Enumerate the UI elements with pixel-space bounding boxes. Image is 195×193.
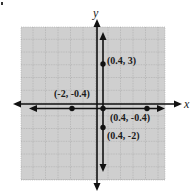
label-0-4-3: (0.4, 3)	[107, 55, 136, 67]
y-axis-up-arrow-icon	[94, 19, 101, 27]
point-0-4-neg0-4	[100, 106, 105, 111]
label-0-4-neg2: (0.4, -2)	[107, 130, 140, 142]
y-axis-down-arrow-icon	[94, 183, 101, 191]
x-axis-left-arrow-icon	[13, 101, 21, 108]
x-axis-label: x	[183, 97, 190, 111]
point-0-4-neg2	[100, 125, 105, 130]
label-neg2-neg0-4: (-2, -0.4)	[54, 88, 90, 100]
point-neg2-neg0-4	[69, 106, 74, 111]
point-right-on-line	[144, 106, 149, 111]
y-axis-label: y	[92, 6, 99, 20]
label-0-4-neg0-4: (0.4, -0.4)	[110, 112, 150, 124]
speck-mark	[1, 2, 3, 5]
x-axis-right-arrow-icon	[174, 101, 182, 108]
coordinate-plane: x y (0.4, 3) (-2, -0.4) (0.4, -0.4) (0.4…	[0, 0, 195, 193]
point-0-4-3	[100, 61, 105, 66]
